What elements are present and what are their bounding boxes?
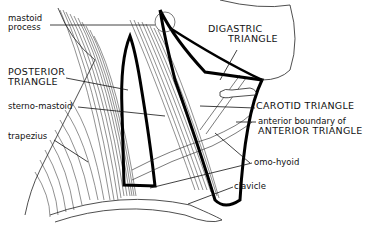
mastoid-process-label: mastoid process — [8, 14, 42, 33]
clavicle-label: clavicle — [234, 182, 266, 191]
hyoid-bone — [220, 88, 256, 98]
posterior-triangle-label: POSTERIOR TRIANGLE — [8, 67, 65, 88]
neck-triangles-diagram: mastoid process POSTERIOR TRIANGLE stern… — [0, 0, 365, 231]
digastric-triangle-label: DIGASTRIC TRIANGLE — [208, 24, 278, 45]
anterior-triangle-label: anterior boundary of ANTERIOR TRIANGLE — [258, 117, 362, 137]
sterno-mastoid-label: sterno-mastoid — [8, 102, 72, 111]
trapezius-label: trapezius — [8, 132, 47, 141]
clavicle-bone — [50, 199, 222, 222]
carotid-triangle-label: CAROTID TRIANGLE — [256, 101, 354, 111]
omo-hyoid-label: omo-hyoid — [254, 158, 299, 167]
